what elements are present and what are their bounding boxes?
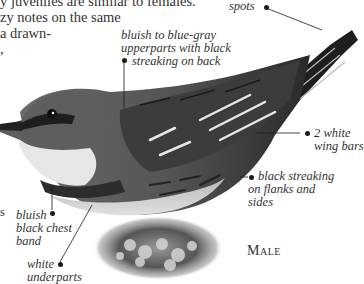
callout-flanks-dot: [249, 175, 254, 180]
callout-flanks-line-3: sides: [248, 196, 334, 209]
callout-upperparts: bluish to blue-gray upperparts with blac…: [121, 29, 231, 68]
callout-underparts-dot: [58, 262, 63, 267]
callout-spots: spots: [229, 0, 255, 13]
callout-spots-text: spots: [229, 0, 255, 13]
callout-chest-band-line-3: band: [16, 235, 72, 248]
callout-wing-bars-line-2: wing bars: [314, 140, 364, 153]
callout-spots-dot: [264, 5, 269, 10]
callout-wing-bars-dot: [305, 131, 310, 136]
callout-chest-band: bluish black chest band: [16, 209, 72, 248]
margin-text-fragment: s: [0, 206, 5, 219]
callout-upperparts-dot: [122, 58, 127, 63]
body-line-1: y juveniles are similar to females.: [0, 0, 196, 9]
body-line-2: zy notes on the same: [0, 9, 196, 25]
callout-underparts-line-2: underparts: [27, 271, 82, 284]
callout-upperparts-line-3: streaking on back: [121, 55, 231, 68]
callout-flanks: black streaking on flanks and sides: [248, 170, 334, 209]
sex-label: Male: [247, 243, 281, 259]
callout-wing-bars: 2 white wing bars: [314, 127, 364, 153]
callout-chest-band-dot: [50, 211, 55, 216]
callout-underparts: white underparts: [27, 258, 82, 284]
